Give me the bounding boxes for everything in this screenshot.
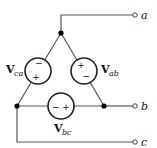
node-left bbox=[14, 103, 19, 108]
delta-circuit-diagram: − + V ca + − V ab − + V bc a b c bbox=[0, 0, 157, 148]
terminal-b bbox=[133, 104, 137, 108]
vab-label-sub: ab bbox=[109, 69, 119, 78]
wire-to-c bbox=[17, 106, 133, 142]
terminal-a bbox=[133, 13, 137, 17]
vab-top-sign: + bbox=[77, 60, 85, 70]
vbc-label-sub: bc bbox=[62, 128, 72, 137]
vca-bottom-sign: + bbox=[32, 72, 40, 82]
vca-label-sub: ca bbox=[14, 69, 23, 78]
vab-bottom-sign: − bbox=[82, 71, 90, 81]
vbc-left-sign: − bbox=[52, 102, 60, 112]
source-vab: + − V ab bbox=[71, 58, 119, 84]
node-right bbox=[101, 103, 106, 108]
wire-to-a bbox=[61, 15, 133, 33]
terminal-c bbox=[133, 140, 137, 144]
terminal-c-label: c bbox=[141, 136, 147, 148]
vbc-right-sign: + bbox=[62, 102, 70, 112]
terminal-b-label: b bbox=[141, 100, 148, 113]
node-top bbox=[58, 30, 63, 35]
vca-top-sign: − bbox=[35, 58, 43, 68]
source-vca: − + V ca bbox=[5, 58, 51, 84]
terminal-a-label: a bbox=[141, 9, 148, 22]
source-vbc: − + V bc bbox=[48, 93, 74, 137]
